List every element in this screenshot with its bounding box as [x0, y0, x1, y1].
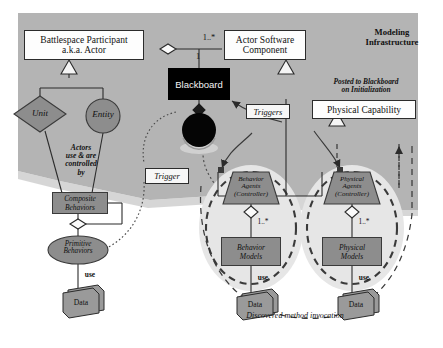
- behavior-agents-label: Behavior Agents (Controller): [221, 176, 281, 198]
- use-label-physical: use: [354, 273, 374, 282]
- use-label-behavior: use: [253, 273, 273, 282]
- class-battlespace-participant[interactable]: Battlespace Participant a.k.a. Actor: [24, 30, 144, 60]
- actor-software-component-line1: Actor Software: [236, 35, 294, 45]
- behavior-agents-line3: (Controller): [234, 190, 268, 198]
- behavior-models-line2: Models: [240, 252, 262, 261]
- posted-note-line2: on Initialization: [341, 85, 390, 94]
- behavior-models-line1: Behavior: [237, 243, 265, 252]
- note-discovered-method-invocation: Discovered method invocation: [215, 312, 375, 321]
- class-composite-behaviors[interactable]: Composite Behaviors: [52, 192, 108, 214]
- battlespace-participant-line2: a.k.a. Actor: [62, 45, 106, 55]
- triggers-label: Triggers: [254, 107, 283, 117]
- multiplicity-one-to-many: 1..*: [196, 33, 222, 42]
- physical-models-line1: Physical: [339, 243, 365, 252]
- actor-software-component-line2: Component: [243, 45, 287, 55]
- class-physical-capability[interactable]: Physical Capability: [312, 100, 416, 119]
- composite-behaviors-line1: Composite: [64, 194, 96, 203]
- multiplicity-physical-many: 1..*: [353, 217, 375, 226]
- note-trigger[interactable]: Trigger: [145, 168, 189, 184]
- battlespace-participant-line1: Battlespace Participant: [40, 35, 127, 45]
- note-triggers[interactable]: Triggers: [246, 104, 290, 119]
- data-behavior-label: Data: [237, 301, 273, 309]
- primitive-behaviors-line2: Behaviors: [63, 247, 92, 255]
- class-physical-models[interactable]: Physical Models: [322, 237, 382, 266]
- unit-label: Unit: [14, 109, 66, 118]
- composite-behaviors-line2: Behaviors: [65, 203, 95, 212]
- data-left-label: Data: [63, 299, 99, 307]
- physical-agents-line3: (Controller): [335, 190, 369, 198]
- class-blackboard[interactable]: Blackboard: [168, 68, 230, 100]
- multiplicity-behavior-many: 1..*: [252, 217, 274, 226]
- entity-label: Entity: [78, 110, 128, 119]
- multiplicity-one: 1: [190, 52, 206, 61]
- physical-models-line2: Models: [341, 252, 363, 261]
- modeling-infrastructure-line2: Infrastructure: [366, 37, 419, 47]
- note-posted-to-blackboard: Posted to Blackboard on Initialization: [312, 78, 420, 94]
- note-actors-use-controlled-by: Actors use & are controlled by: [50, 144, 112, 177]
- use-label-left: use: [80, 270, 100, 279]
- trigger-label: Trigger: [154, 171, 180, 181]
- class-actor-software-component[interactable]: Actor Software Component: [224, 30, 306, 60]
- data-physical-label: Data: [338, 301, 374, 309]
- primitive-behaviors-label: Primitive Behaviors: [48, 241, 108, 256]
- modeling-infrastructure-line1: Modeling: [375, 27, 410, 37]
- actors-note-line4: by: [77, 168, 84, 177]
- physical-agents-label: Physical Agents (Controller): [322, 176, 382, 198]
- physical-capability-label: Physical Capability: [327, 105, 401, 115]
- class-behavior-models[interactable]: Behavior Models: [221, 237, 281, 266]
- note-modeling-infrastructure: Modeling Infrastructure: [346, 28, 438, 47]
- diagram-canvas: Battlespace Participant a.k.a. Actor Act…: [0, 0, 443, 348]
- blackboard-label: Blackboard: [175, 79, 223, 90]
